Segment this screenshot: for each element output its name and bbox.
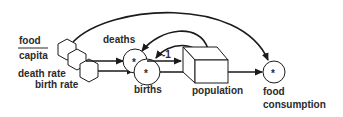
food-capita-denominator-label: capita bbox=[19, 50, 48, 61]
birth-rate-hexagon bbox=[80, 59, 98, 82]
population-label: population bbox=[192, 85, 243, 96]
food-consumption-label-line1: food bbox=[263, 86, 285, 97]
births-label: births bbox=[134, 84, 162, 95]
food-consumption-label-line2: consumption bbox=[263, 99, 326, 110]
food-capita-numerator-label: food bbox=[19, 35, 41, 46]
population-food-diagram: food capita death rate birth rate * * -1… bbox=[0, 0, 343, 117]
birth-rate-label: birth rate bbox=[35, 79, 79, 90]
deaths-label: deaths bbox=[103, 34, 136, 45]
population-stock-box bbox=[183, 47, 228, 83]
births-multiply-symbol: * bbox=[144, 68, 148, 79]
consumption-multiply-symbol: * bbox=[271, 68, 275, 79]
death-rate-label: death rate bbox=[18, 68, 66, 79]
negative-sign-label: -1 bbox=[162, 49, 171, 60]
